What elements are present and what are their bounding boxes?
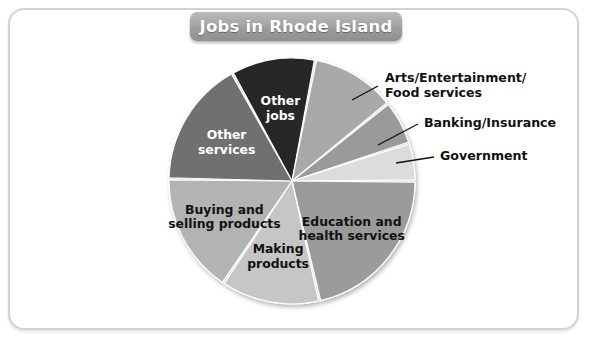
pie-callout-label: Arts/Entertainment/Food services [385,70,527,100]
pie-slice-label: Buying andselling products [168,202,280,232]
pie-callout-label: Banking/Insurance [424,115,556,130]
pie-slice-label: Education andhealth services [299,214,405,244]
page-title: Jobs in Rhode Island [200,17,393,36]
pie-slice-label: Makingproducts [247,241,309,271]
pie-callout-label: Government [440,148,528,163]
chart-title-banner: Jobs in Rhode Island [190,12,402,41]
pie-chart-svg: OtherjobsEducation andhealth servicesMak… [0,0,591,344]
pie-chart: OtherjobsEducation andhealth servicesMak… [0,0,591,344]
